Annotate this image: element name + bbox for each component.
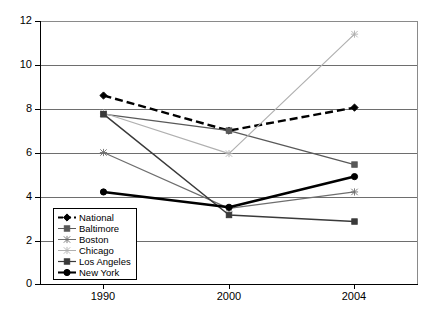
legend: National Baltimore Boston Chicago Los An…: [53, 208, 137, 280]
series-boston: [100, 149, 358, 212]
legend-key-los-angeles: [57, 256, 77, 267]
legend-key-boston: [57, 234, 77, 245]
legend-key-baltimore: [57, 223, 77, 234]
series-baltimore: [101, 111, 357, 167]
series-new-york: [100, 174, 357, 211]
legend-item-national[interactable]: National: [57, 212, 134, 223]
legend-item-chicago[interactable]: Chicago: [57, 245, 134, 256]
line-chart: 12 10 8 6 4 2 0 1990 2000 2004 National …: [0, 0, 429, 317]
legend-item-baltimore[interactable]: Baltimore: [57, 223, 134, 234]
legend-key-national: [57, 212, 77, 223]
legend-label-boston: Boston: [79, 235, 109, 245]
legend-key-new-york: [57, 267, 77, 278]
legend-key-chicago: [57, 245, 77, 256]
legend-label-chicago: Chicago: [79, 246, 114, 256]
legend-item-boston[interactable]: Boston: [57, 234, 134, 245]
series-chicago: [100, 31, 358, 158]
legend-label-new-york: New York: [79, 268, 119, 278]
legend-item-new-york[interactable]: New York: [57, 267, 134, 278]
legend-item-los-angeles[interactable]: Los Angeles: [57, 256, 134, 267]
legend-label-national: National: [79, 213, 114, 223]
legend-label-los-angeles: Los Angeles: [79, 257, 131, 267]
legend-label-baltimore: Baltimore: [79, 224, 119, 234]
